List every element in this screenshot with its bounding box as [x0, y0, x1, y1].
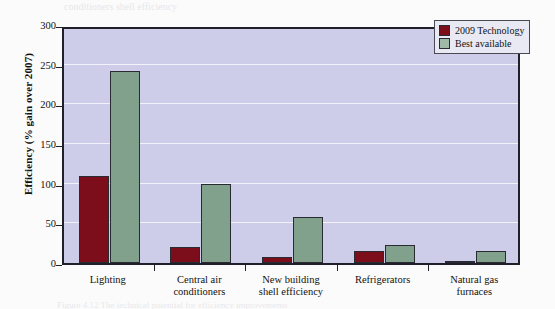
legend-label-best-available: Best available	[455, 38, 511, 49]
bar-best-3	[385, 245, 415, 263]
x-axis-label-1: Central airconditioners	[154, 274, 246, 298]
bar-best-2	[293, 217, 323, 263]
bar-best-4	[476, 251, 506, 263]
legend-item-best-available: Best available	[439, 37, 524, 50]
legend-label-2009-technology: 2009 Technology	[455, 25, 524, 36]
bar-2009-2	[262, 257, 292, 263]
x-axis-label-0: Lighting	[62, 274, 154, 286]
x-axis-separator-4	[428, 265, 429, 271]
x-axis-separator-3	[337, 265, 338, 271]
bar-best-0	[110, 71, 140, 263]
bar-2009-3	[354, 251, 384, 263]
y-tick-label-200: 200	[0, 99, 56, 110]
y-tick-label-150: 150	[0, 139, 56, 150]
x-axis-separator-1	[154, 265, 155, 271]
plot-area	[62, 27, 520, 265]
figure-caption-sliver: Figure 4.12 The technical potential for …	[57, 300, 487, 309]
x-axis-label-line: New building	[245, 274, 337, 286]
y-tick-label-0: 0	[0, 258, 56, 269]
x-axis-label-line: Refrigerators	[337, 274, 429, 286]
x-axis-label-line: Natural gas	[428, 274, 520, 286]
x-axis-label-4: Natural gasfurnaces	[428, 274, 520, 298]
x-axis-label-line: furnaces	[428, 286, 520, 298]
x-axis-separator-2	[245, 265, 246, 271]
bar-2009-4	[445, 261, 475, 263]
bar-series-container	[64, 29, 518, 263]
efficiency-bar-chart-figure: conditioners shell efficiency Efficiency…	[0, 0, 555, 309]
x-axis-label-line: Lighting	[62, 274, 154, 286]
bar-best-1	[201, 184, 231, 263]
x-axis-label-line: Central air	[154, 274, 246, 286]
legend-swatch-best-available	[439, 38, 450, 49]
y-tick-mark-0	[56, 265, 62, 266]
y-tick-label-300: 300	[0, 20, 56, 31]
x-axis-label-3: Refrigerators	[337, 274, 429, 286]
x-axis-label-line: shell efficiency	[245, 286, 337, 298]
chart-legend: 2009 Technology Best available	[434, 20, 530, 54]
y-tick-label-100: 100	[0, 179, 56, 190]
bar-2009-1	[170, 247, 200, 263]
legend-item-2009-technology: 2009 Technology	[439, 24, 524, 37]
page-bleed-artifact: conditioners shell efficiency	[64, 1, 494, 13]
bar-2009-0	[79, 176, 109, 263]
legend-swatch-2009-technology	[439, 25, 450, 36]
x-axis-label-line: conditioners	[154, 286, 246, 298]
y-tick-label-250: 250	[0, 60, 56, 71]
x-axis-label-2: New buildingshell efficiency	[245, 274, 337, 298]
y-axis-title: Efficiency (% gain over 2007)	[22, 4, 34, 244]
y-tick-label-50: 50	[0, 218, 56, 229]
